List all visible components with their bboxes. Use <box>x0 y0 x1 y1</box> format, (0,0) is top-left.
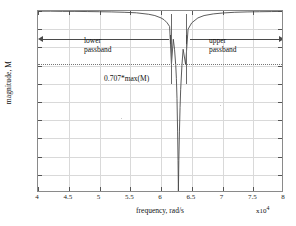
lower-passband-label: lower passband <box>84 36 112 54</box>
x-tick-label: 8 <box>263 194 296 201</box>
half-power-label: 0.707*max(M) <box>104 74 149 83</box>
half-power-reference-line <box>38 64 282 65</box>
plot-area: lower passband upper passband 0.707*max(… <box>37 10 283 192</box>
magnitude-curve <box>38 11 283 192</box>
x-axis-exponent-power: 4 <box>267 205 270 211</box>
x-axis-exponent-base: x10 <box>256 207 267 215</box>
upper-passband-arrow-cap <box>186 35 187 44</box>
figure-canvas: magnitude, M 00.10.20.30.40.50.60.70.80.… <box>0 0 296 226</box>
lower-passband-arrow-cap <box>170 35 171 44</box>
upper-passband-arrow-head <box>279 36 283 42</box>
x-axis-title: frequency, rad/s <box>37 206 283 215</box>
scan-speck <box>121 118 122 119</box>
x-axis-exponent: x104 <box>256 205 269 215</box>
lower-passband-arrow-head <box>38 36 43 42</box>
scan-speck <box>220 105 221 106</box>
x-axis-tick-labels: 44.555.566.577.58 <box>37 194 283 206</box>
lower-cutoff-marker <box>171 14 172 84</box>
upper-cutoff-marker <box>186 14 187 84</box>
upper-passband-label: upper passband <box>209 36 237 54</box>
y-axis-title: magnitude, M <box>4 47 13 119</box>
